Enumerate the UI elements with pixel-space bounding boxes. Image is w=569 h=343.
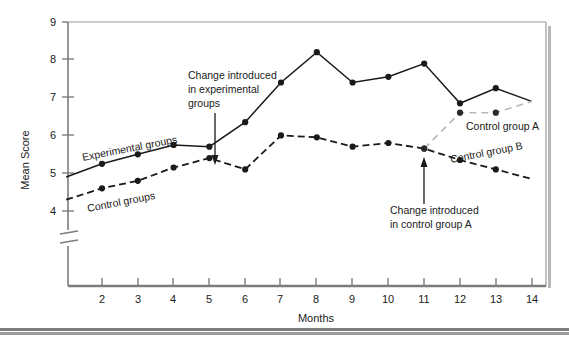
x-tick-label-10: 10 (382, 293, 394, 305)
x-tick-label-7: 7 (277, 293, 283, 305)
data-point (385, 140, 391, 146)
x-tick-label-8: 8 (313, 293, 319, 305)
data-point (242, 166, 248, 172)
data-point (206, 155, 212, 161)
data-point (493, 85, 499, 91)
x-tick-label-11: 11 (418, 293, 429, 305)
data-point (350, 79, 356, 85)
data-point (171, 164, 177, 170)
annotation-experimental-line-3: groups (188, 97, 220, 109)
annotation-control-a-line-2: in control group A (390, 218, 472, 230)
x-tick-label-3: 3 (135, 293, 141, 305)
data-point (99, 161, 105, 167)
y-axis-title: Mean Score (19, 130, 31, 189)
data-point (493, 110, 499, 116)
data-point (457, 110, 463, 116)
data-point (350, 144, 356, 150)
x-tick-label-14: 14 (526, 293, 538, 305)
page-bottom-rule (0, 328, 569, 335)
x-axis: 2 3 4 5 6 7 8 9 10 11 12 13 14 Months (68, 278, 546, 324)
x-tick-label-6: 6 (242, 293, 248, 305)
x-tick-label-2: 2 (99, 293, 105, 305)
data-point (99, 185, 105, 191)
data-point (421, 61, 427, 67)
annotation-control-a-line-1: Change introduced (390, 204, 479, 216)
annotation-experimental-line-1: Change introduced (188, 69, 277, 81)
data-point (314, 49, 320, 55)
data-point (278, 132, 284, 138)
x-tick-label-13: 13 (490, 293, 502, 305)
figure-container: 9 8 7 6 5 4 Mean Score (0, 0, 569, 343)
annotation-experimental-line-2: in experimental (188, 83, 259, 95)
data-point (385, 74, 391, 80)
data-point (135, 178, 141, 184)
y-tick-label-5: 5 (50, 167, 56, 179)
y-tick-label-6: 6 (50, 129, 56, 141)
data-point (242, 119, 248, 125)
data-point (314, 134, 320, 140)
data-point (421, 146, 427, 152)
x-tick-label-12: 12 (454, 293, 466, 305)
y-tick-label-4: 4 (50, 205, 56, 217)
y-tick-label-9: 9 (50, 16, 56, 28)
x-tick-label-4: 4 (170, 293, 176, 305)
data-point (278, 79, 284, 85)
y-tick-label-8: 8 (50, 53, 56, 65)
data-point (493, 166, 499, 172)
line-chart: 9 8 7 6 5 4 Mean Score (0, 0, 569, 343)
data-point (206, 144, 212, 150)
x-axis-title: Months (298, 312, 335, 324)
x-tick-label-9: 9 (349, 293, 355, 305)
x-tick-label-5: 5 (206, 293, 212, 305)
series-label-control-group-a: Control group A (466, 120, 539, 132)
y-tick-label-7: 7 (50, 91, 56, 103)
data-point (457, 100, 463, 106)
